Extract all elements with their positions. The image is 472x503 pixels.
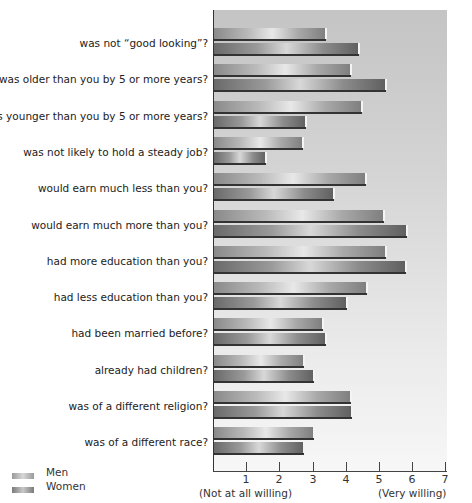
- category-label: had less education than you?: [54, 291, 208, 303]
- bar-women: [214, 406, 352, 419]
- bar-men: [214, 318, 323, 331]
- category-label: had more education than you?: [47, 255, 208, 267]
- x-tick: [346, 462, 347, 471]
- bar-men: [214, 137, 303, 150]
- legend-label-women: Women: [46, 480, 86, 492]
- x-tick-label: 6: [402, 473, 422, 486]
- category-label: was not “good looking”?: [80, 37, 208, 49]
- bar-women: [214, 370, 314, 383]
- bar-chart: was not “good looking”?was older than yo…: [0, 0, 472, 503]
- category-label: would earn much less than you?: [38, 182, 208, 194]
- x-tick: [445, 462, 446, 471]
- bar-women: [214, 297, 347, 310]
- category-label: had been married before?: [71, 327, 208, 339]
- category-label: already had children?: [95, 364, 208, 376]
- x-tick-label: 1: [236, 473, 256, 486]
- bar-women: [214, 152, 266, 165]
- x-tick-label: 5: [369, 473, 389, 486]
- bar-women: [214, 261, 406, 274]
- category-label: was not likely to hold a steady job?: [23, 146, 208, 158]
- x-tick: [313, 462, 314, 471]
- bar-men: [214, 391, 351, 404]
- x-tick: [246, 462, 247, 471]
- x-tick: [412, 462, 413, 471]
- x-tick-label: 7: [435, 473, 455, 486]
- x-axis-line: [213, 471, 447, 472]
- legend-swatch-men: [12, 473, 34, 479]
- bar-men: [214, 355, 304, 368]
- bar-women: [214, 225, 407, 238]
- bar-women: [214, 188, 334, 201]
- legend-swatch-women: [12, 487, 34, 493]
- x-tick-label: 4: [336, 473, 356, 486]
- bar-men: [214, 246, 386, 259]
- bar-men: [214, 101, 362, 114]
- bar-men: [214, 64, 351, 77]
- bar-women: [214, 116, 306, 129]
- axis-note-high: (Very willing): [378, 487, 446, 499]
- x-tick: [379, 462, 380, 471]
- bar-men: [214, 282, 367, 295]
- category-label: would earn much more than you?: [31, 219, 208, 231]
- x-tick-label: 3: [303, 473, 323, 486]
- bar-men: [214, 210, 384, 223]
- category-label: was of a different religion?: [68, 400, 208, 412]
- x-tick-label: 2: [269, 473, 289, 486]
- bar-men: [214, 28, 326, 41]
- category-label: was older than you by 5 or more years?: [0, 73, 208, 85]
- bar-men: [214, 173, 366, 186]
- axis-note-low: (Not at all willing): [199, 487, 292, 499]
- category-label: was younger than you by 5 or more years?: [0, 110, 208, 122]
- bar-men: [214, 427, 314, 440]
- bar-women: [214, 79, 386, 92]
- legend-label-men: Men: [46, 466, 68, 478]
- category-label: was of a different race?: [84, 436, 208, 448]
- bar-women: [214, 442, 304, 455]
- bar-women: [214, 333, 326, 346]
- x-tick: [279, 462, 280, 471]
- bar-women: [214, 43, 359, 56]
